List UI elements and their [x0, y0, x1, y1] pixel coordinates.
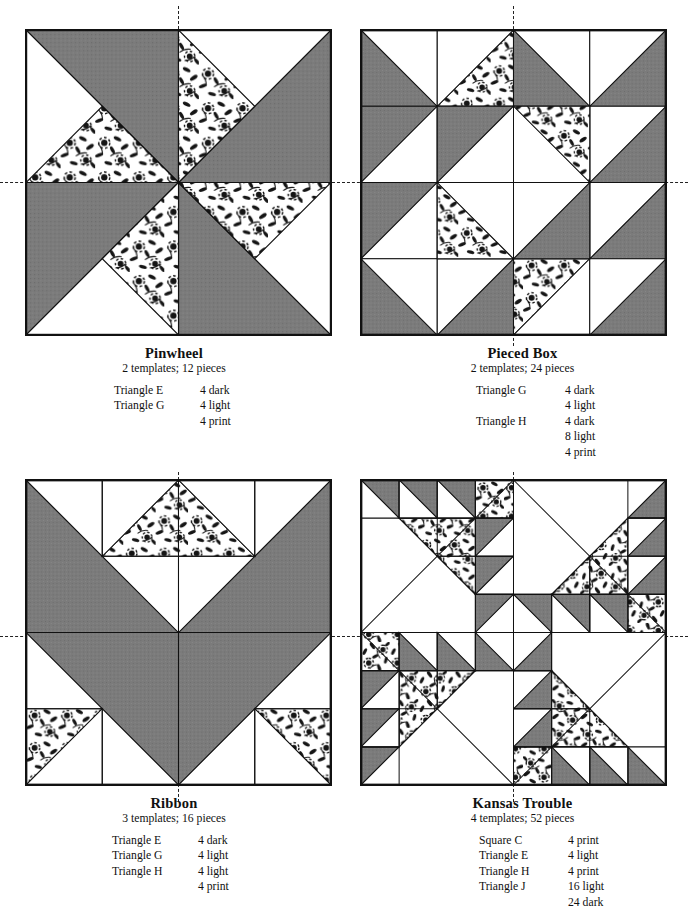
pieced-box-caption: Pieced Box 2 templates; 24 pieces Triang… — [348, 345, 697, 461]
piece-list: Square C4 print Triangle E4 light Triang… — [479, 833, 697, 911]
piece-quantity: 8 light — [565, 429, 595, 445]
block-title: Ribbon — [0, 795, 348, 811]
piece-row: Triangle H4 light — [112, 864, 348, 880]
piece-template-name: Triangle G — [112, 848, 198, 864]
piece-quantity: 4 print — [568, 833, 599, 849]
piece-template-name: Triangle E — [114, 383, 200, 399]
piece-quantity: 4 light — [200, 398, 230, 414]
piece-row: 4 print — [114, 414, 348, 430]
piece-quantity: 4 dark — [565, 414, 595, 430]
block-subtitle: 4 templates; 52 pieces — [348, 812, 697, 825]
block-subtitle: 2 templates; 24 pieces — [348, 362, 697, 375]
piece-quantity: 24 dark — [568, 895, 603, 911]
block-ribbon: Ribbon 3 templates; 16 pieces Triangle E… — [0, 458, 348, 920]
piece-template-name: Triangle G — [476, 383, 565, 399]
piece-quantity: 16 light — [568, 879, 604, 895]
piece-row: Triangle E4 light — [479, 848, 697, 864]
kansas-trouble-diagram — [360, 479, 667, 786]
piece-quantity: 4 print — [568, 864, 599, 880]
block-title: Kansas Trouble — [348, 795, 697, 811]
piece-quantity: 4 light — [568, 848, 598, 864]
piece-list: Triangle G4 dark 4 light Triangle H4 dar… — [476, 383, 697, 461]
piece-template-name: Square C — [479, 833, 568, 849]
piece-template-name: Triangle J — [479, 879, 568, 895]
piece-quantity: 4 light — [565, 398, 595, 414]
piece-template-name: Triangle H — [112, 864, 198, 880]
block-subtitle: 3 templates; 16 pieces — [0, 812, 348, 825]
piece-row: Triangle H4 dark — [476, 414, 697, 430]
piece-row: Triangle J16 light — [479, 879, 697, 895]
piece-row: Triangle G4 light — [114, 398, 348, 414]
piece-row: Triangle G4 light — [112, 848, 348, 864]
piece-row: 4 light — [476, 398, 697, 414]
piece-template-name: Triangle E — [479, 848, 568, 864]
pieced-box-diagram — [360, 29, 667, 336]
block-kansas-trouble: Kansas Trouble 4 templates; 52 pieces Sq… — [348, 458, 697, 920]
pinwheel-diagram — [25, 29, 332, 336]
piece-row: 4 print — [112, 879, 348, 895]
piece-row: 8 light — [476, 429, 697, 445]
piece-row: Triangle G4 dark — [476, 383, 697, 399]
piece-template-name: Triangle H — [476, 414, 565, 430]
piece-template-name: Triangle E — [112, 833, 198, 849]
piece-quantity: 4 print — [200, 414, 231, 430]
pattern-page: Pinwheel 2 templates; 12 pieces Triangle… — [0, 0, 697, 920]
piece-quantity: 4 dark — [198, 833, 228, 849]
ribbon-caption: Ribbon 3 templates; 16 pieces Triangle E… — [0, 795, 348, 895]
piece-list: Triangle E4 dark Triangle G4 light Trian… — [112, 833, 348, 895]
block-subtitle: 2 templates; 12 pieces — [0, 362, 348, 375]
piece-row: 24 dark — [479, 895, 697, 911]
kansas-trouble-caption: Kansas Trouble 4 templates; 52 pieces Sq… — [348, 795, 697, 911]
block-pieced-box: Pieced Box 2 templates; 24 pieces Triang… — [348, 0, 697, 480]
piece-template-name: Triangle G — [114, 398, 200, 414]
piece-row: Triangle E4 dark — [114, 383, 348, 399]
piece-quantity: 4 dark — [200, 383, 230, 399]
ribbon-diagram — [25, 479, 332, 786]
piece-row: Triangle E4 dark — [112, 833, 348, 849]
piece-quantity: 4 print — [198, 879, 229, 895]
block-title: Pieced Box — [348, 345, 697, 361]
piece-quantity: 4 light — [198, 864, 228, 880]
piece-quantity: 4 dark — [565, 383, 595, 399]
piece-template-name: Triangle H — [479, 864, 568, 880]
pinwheel-caption: Pinwheel 2 templates; 12 pieces Triangle… — [0, 345, 348, 429]
piece-quantity: 4 light — [198, 848, 228, 864]
piece-list: Triangle E4 dark Triangle G4 light 4 pri… — [114, 383, 348, 430]
block-title: Pinwheel — [0, 345, 348, 361]
piece-row: Triangle H4 print — [479, 864, 697, 880]
block-pinwheel: Pinwheel 2 templates; 12 pieces Triangle… — [0, 0, 348, 460]
piece-row: Square C4 print — [479, 833, 697, 849]
